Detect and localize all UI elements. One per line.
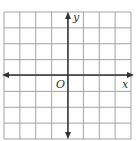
- y-axis-down-arrow-icon: [65, 132, 71, 139]
- y-axis-up-arrow-icon: [65, 12, 71, 19]
- origin-label: O: [56, 78, 65, 91]
- coordinate-plane: y x O: [0, 0, 136, 141]
- x-axis-label: x: [122, 78, 129, 91]
- y-axis-label: y: [72, 11, 80, 24]
- x-axis-left-arrow-icon: [2, 72, 9, 78]
